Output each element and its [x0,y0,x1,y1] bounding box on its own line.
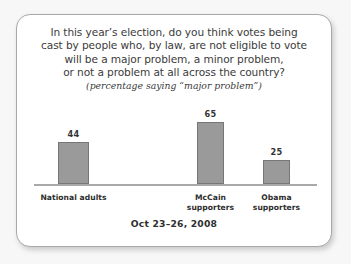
bar-group-mccain-supporters: 65 McCain supporters [183,15,238,184]
bar-label-line-1: National adults [40,193,106,202]
bar-value-obama-supporters: 25 [271,147,283,157]
bar-mccain-supporters [197,122,224,184]
bar-obama-supporters [263,160,290,184]
bar-label-line-2: supporters [253,203,300,212]
bar-label-line-2: supporters [187,203,234,212]
bar-label-obama-supporters: Obama supporters [253,193,300,212]
bar-value-national-adults: 44 [68,129,80,139]
bar-label-mccain-supporters: McCain supporters [187,193,234,212]
bar-group-obama-supporters: 25 Obama supporters [249,15,304,184]
axis-baseline [34,184,317,186]
chart-footer-date: Oct 23–26, 2008 [17,218,331,229]
plot-area: 44 National adults 65 McCain supporters … [17,15,331,246]
bar-group-national-adults: 44 National adults [34,15,113,184]
chart-card: In this year’s election, do you think vo… [16,14,332,247]
bar-value-mccain-supporters: 65 [205,109,217,119]
bar-national-adults [58,142,89,184]
bar-label-line-1: Obama [261,193,291,202]
bar-label-line-1: McCain [195,193,226,202]
bar-label-national-adults: National adults [40,193,106,203]
